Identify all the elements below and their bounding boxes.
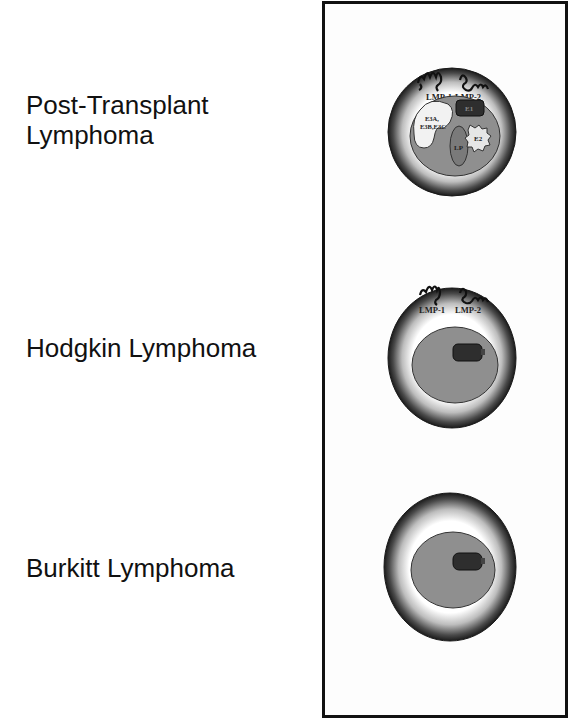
ebna1-tab [481, 558, 485, 564]
ebna3-label-1: E3A, [425, 115, 439, 122]
cell-burkitt [384, 493, 516, 641]
lp-label: LP [454, 144, 464, 152]
cell-diagrams: LMP-1 LMP-2 E3A, E3B,E3C E1 LP E2 LMP-1 … [0, 0, 585, 728]
ebna3-label-2: E3B,E3C [420, 123, 446, 130]
ebna1-box [453, 553, 482, 570]
ebna1-label: E1 [465, 105, 474, 113]
nucleus [411, 532, 495, 608]
lmp2-label: LMP-2 [455, 305, 481, 315]
cell-hodgkin: LMP-1 LMP-2 [388, 287, 516, 429]
ebna1-box [453, 344, 482, 361]
ebna1-tab [481, 349, 485, 355]
nucleus [412, 327, 498, 403]
cell-post-transplant: LMP-1 LMP-2 E3A, E3B,E3C E1 LP E2 [388, 68, 516, 196]
e2-label: E2 [474, 135, 483, 143]
lmp1-label: LMP-1 [419, 305, 445, 315]
